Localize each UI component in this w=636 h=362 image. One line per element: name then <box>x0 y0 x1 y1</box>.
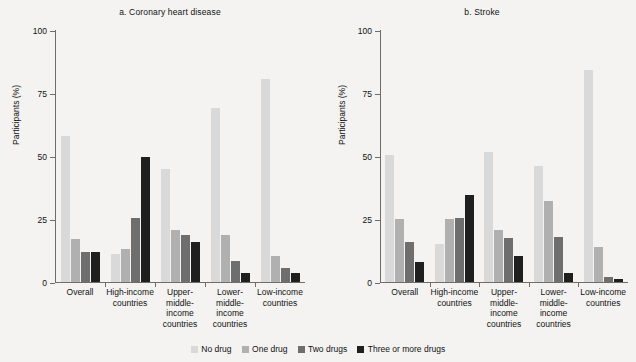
bar <box>191 242 200 282</box>
bar-group <box>205 30 255 282</box>
bar-group <box>529 30 579 282</box>
bar <box>121 249 130 282</box>
bar <box>271 256 280 282</box>
bar-group <box>578 30 628 282</box>
panel-b-x-axis <box>380 282 628 283</box>
bar <box>71 239 80 282</box>
bar-group <box>430 30 480 282</box>
bar-group <box>155 30 205 282</box>
y-tick-label: 75 <box>38 90 47 99</box>
legend-swatch-icon <box>242 346 249 353</box>
x-axis-category-label: Overall <box>55 287 105 298</box>
bar <box>171 230 180 282</box>
bar <box>91 252 100 282</box>
legend-item[interactable]: Two drugs <box>298 345 348 354</box>
bar <box>261 79 270 282</box>
bar <box>61 136 70 282</box>
panel-a-bar-groups <box>55 30 305 282</box>
bar <box>111 254 120 282</box>
y-tick-label: 0 <box>367 279 372 288</box>
bar <box>181 235 190 282</box>
legend-swatch-icon <box>357 346 364 353</box>
x-axis-category-label: Upper- middle- income countries <box>155 287 205 329</box>
bar <box>231 261 240 282</box>
bar <box>465 195 474 282</box>
bar <box>161 169 170 282</box>
bar-group <box>380 30 430 282</box>
y-tick-label: 50 <box>363 153 372 162</box>
bar <box>131 218 140 282</box>
legend-item[interactable]: One drug <box>242 345 288 354</box>
bar <box>405 242 414 282</box>
bar <box>504 238 513 282</box>
legend-item[interactable]: Three or more drugs <box>357 345 445 354</box>
y-tick-label: 25 <box>363 216 372 225</box>
chart-legend: No drugOne drugTwo drugsThree or more dr… <box>0 341 636 357</box>
x-axis-category-label: Lower- middle- income countries <box>529 287 579 329</box>
bar <box>544 201 553 282</box>
legend-item[interactable]: No drug <box>191 345 232 354</box>
y-tick-label: 50 <box>38 153 47 162</box>
bar <box>241 273 250 282</box>
y-tick-mark <box>375 283 380 284</box>
bar <box>221 235 230 282</box>
legend-swatch-icon <box>191 346 198 353</box>
legend-label: Three or more drugs <box>368 345 445 354</box>
bar <box>514 256 523 282</box>
y-tick-mark <box>50 283 55 284</box>
panel-coronary-heart-disease: a. Coronary heart disease Participants (… <box>0 0 318 338</box>
y-tick-label: 100 <box>358 27 372 36</box>
y-tick-label: 25 <box>38 216 47 225</box>
bar <box>494 230 503 282</box>
bar <box>614 279 623 282</box>
panel-a-x-axis <box>55 282 305 283</box>
panel-a-title: a. Coronary heart disease <box>0 7 318 17</box>
bar <box>415 262 424 282</box>
panel-a-plot-area: 0255075100 <box>55 30 305 283</box>
legend-label: One drug <box>252 345 287 354</box>
y-tick-label: 0 <box>42 279 47 288</box>
x-axis-category-label: High-income countries <box>105 287 155 308</box>
bar <box>604 277 613 282</box>
bar-group <box>255 30 305 282</box>
bar-group <box>479 30 529 282</box>
bar <box>281 268 290 282</box>
x-axis-category-label: Upper- middle- income countries <box>479 287 529 329</box>
x-axis-category-label: Low-income countries <box>255 287 305 308</box>
y-tick-label: 100 <box>33 27 47 36</box>
legend-label: Two drugs <box>308 345 347 354</box>
bar <box>484 152 493 282</box>
chart-figure: a. Coronary heart disease Participants (… <box>0 0 636 362</box>
panel-b-bar-groups <box>380 30 628 282</box>
panel-b-y-axis-label: Participants (%) <box>337 60 347 170</box>
bar <box>211 108 220 282</box>
x-axis-category-label: Low-income countries <box>578 287 628 308</box>
x-axis-category-label: Overall <box>380 287 430 298</box>
panel-b-title: b. Stroke <box>318 7 636 17</box>
bar <box>385 155 394 282</box>
x-axis-category-label: High-income countries <box>430 287 480 308</box>
bar <box>554 237 563 282</box>
panel-stroke: b. Stroke Participants (%) 0255075100 Ov… <box>318 0 636 338</box>
bar-group <box>105 30 155 282</box>
bar <box>141 157 150 282</box>
bar-group <box>55 30 105 282</box>
legend-swatch-icon <box>298 346 305 353</box>
bar <box>81 252 90 282</box>
bar <box>395 219 404 282</box>
legend-label: No drug <box>201 345 231 354</box>
bar <box>455 218 464 282</box>
bar <box>564 273 573 282</box>
bar <box>584 70 593 282</box>
x-axis-category-label: Lower- middle- income countries <box>205 287 255 329</box>
panel-a-y-axis-label: Participants (%) <box>11 60 21 170</box>
bar <box>534 166 543 282</box>
panel-b-plot-area: 0255075100 <box>380 30 628 283</box>
bar <box>291 273 300 282</box>
bar <box>594 247 603 282</box>
bar <box>435 244 444 282</box>
bar <box>445 219 454 282</box>
y-tick-label: 75 <box>363 90 372 99</box>
